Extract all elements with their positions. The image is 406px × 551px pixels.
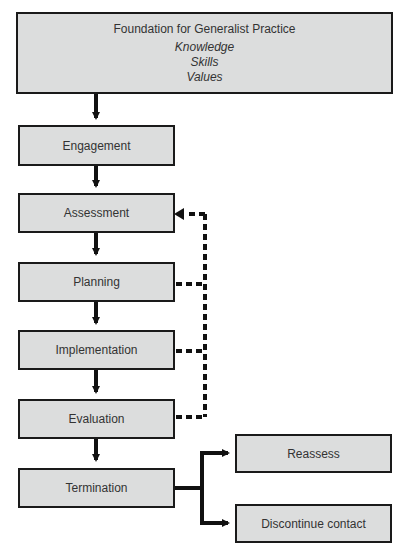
step-planning: Planning (18, 262, 175, 302)
step-label: Planning (73, 275, 120, 289)
foundation-title: Foundation for Generalist Practice (113, 22, 295, 36)
step-termination: Termination (18, 468, 175, 508)
foundation-box: Foundation for Generalist Practice Knowl… (16, 12, 393, 94)
step-label: Evaluation (68, 412, 124, 426)
step-label: Implementation (55, 343, 137, 357)
step-implementation: Implementation (18, 330, 175, 370)
foundation-item-skills: Skills (190, 55, 218, 70)
step-label: Termination (65, 481, 127, 495)
step-assessment: Assessment (18, 193, 175, 233)
step-label: Assessment (64, 206, 129, 220)
outcome-reassess: Reassess (235, 434, 392, 473)
step-label: Engagement (62, 139, 130, 153)
foundation-item-values: Values (186, 70, 222, 85)
step-evaluation: Evaluation (18, 399, 175, 439)
step-engagement: Engagement (18, 125, 175, 166)
foundation-item-knowledge: Knowledge (175, 40, 234, 55)
outcome-discontinue-contact: Discontinue contact (235, 504, 392, 543)
outcome-label: Reassess (287, 447, 340, 461)
outcome-label: Discontinue contact (261, 517, 366, 531)
